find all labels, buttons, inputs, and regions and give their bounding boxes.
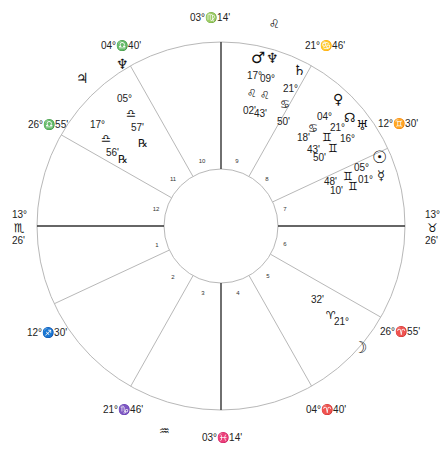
position-text: 04° (317, 111, 332, 122)
house-number-8: 8 (265, 176, 269, 182)
ascendant-label-degree: 13° (12, 209, 27, 220)
intercepted-leo-icon: ♌ (269, 17, 280, 31)
descendant-label-degree: 13° (425, 209, 440, 220)
position-text: 01° (358, 174, 373, 185)
position-text: 50' (313, 152, 326, 163)
cusp-line-2 (54, 250, 169, 304)
sign-glyph-icon: ♎ (101, 132, 111, 145)
cusp-label: 21°♑46' (103, 403, 143, 416)
ascendant-label-minutes: 26' (12, 235, 25, 246)
cusp-line-12 (61, 135, 171, 198)
cusp-label: 26°♈55' (380, 325, 420, 338)
uranus-icon: ♅ (356, 117, 369, 133)
position-text: 21° (283, 83, 298, 94)
sign-glyph-icon: ♊ (328, 142, 338, 155)
position-text: 57' (131, 122, 144, 133)
sun-icon: ☉ (372, 147, 387, 167)
neptune-9-icon: ♆ (266, 50, 279, 66)
descendant-label: 13°♉26' (425, 209, 440, 246)
position-text: 50' (277, 116, 290, 127)
cusp-label: 12°♊30' (378, 117, 418, 130)
cusp-label: 04°♎40' (101, 39, 141, 52)
house-number-9: 9 (235, 158, 239, 164)
sign-glyph-icon: ♎ (126, 107, 136, 120)
cusp-label: 03°♍14' (190, 11, 230, 24)
sign-glyph-icon: ℞ (138, 137, 148, 150)
position-text: 18' (297, 132, 310, 143)
mars-icon: ♂ (251, 48, 265, 67)
house-number-6: 6 (283, 241, 287, 247)
sign-glyph-icon: ♌ (260, 89, 270, 102)
position-text: 05° (354, 162, 369, 173)
descendant-label-minutes: 26' (425, 235, 438, 246)
position-text: 21° (334, 316, 349, 327)
cusp-line-3 (131, 276, 193, 387)
natal-chart-wheel: 03°♍14'21°♋46'12°♊30'04°♎40'26°♎55'12°♐3… (0, 0, 445, 453)
cusp-label: 04°♈40' (306, 403, 346, 416)
cusp-label: 21°♋46' (305, 39, 345, 52)
moon-icon: ☽ (353, 338, 367, 357)
ascendant-label-sign-icon: ♏ (14, 221, 25, 235)
position-text: 10' (330, 185, 343, 196)
neptune-icon: ♆ (116, 56, 129, 72)
sign-glyph-icon: ℞ (118, 153, 128, 166)
house-number-12: 12 (153, 206, 160, 212)
house-number-3: 3 (201, 290, 205, 296)
cusp-line-5 (249, 276, 312, 387)
sign-glyph-icon: ♋ (280, 98, 290, 111)
position-text: 05° (117, 93, 132, 104)
house-number-1: 1 (155, 242, 159, 248)
ascendant-label: 13°♏26' (12, 209, 27, 246)
house-number-11: 11 (170, 176, 177, 182)
cusp-label: 26°♎55' (28, 118, 68, 131)
sign-glyph-icon: ♌ (247, 87, 257, 100)
position-text: 21° (330, 122, 345, 133)
position-text: 32' (311, 294, 324, 305)
house-number-4: 4 (236, 290, 240, 296)
inner-circle (164, 169, 278, 283)
house-number-5: 5 (266, 273, 270, 279)
house-number-2: 2 (171, 274, 175, 280)
house-number-10: 10 (199, 158, 206, 164)
cusp-label: 03°♓14' (202, 431, 242, 444)
wheel-structure (37, 42, 405, 410)
north-node-icon: ☊ (344, 110, 356, 125)
intercepted-aquarius-icon: ♒ (159, 424, 170, 438)
mercury-icon: ☿ (377, 168, 385, 183)
position-text: 16° (340, 133, 355, 144)
cusp-line-6 (271, 254, 381, 317)
descendant-label-sign-icon: ♉ (427, 221, 438, 235)
saturn-icon: ♄ (293, 62, 306, 78)
cusp-label: 12°♐30' (27, 326, 67, 339)
sign-glyph-icon: ♊ (348, 180, 358, 193)
jupiter-icon: ♃ (76, 70, 89, 86)
position-text: 09° (260, 73, 275, 84)
house-number-7: 7 (283, 206, 287, 212)
position-text: 17° (90, 119, 105, 130)
position-text: 43' (254, 108, 267, 119)
venus-icon: ♀ (333, 91, 343, 107)
